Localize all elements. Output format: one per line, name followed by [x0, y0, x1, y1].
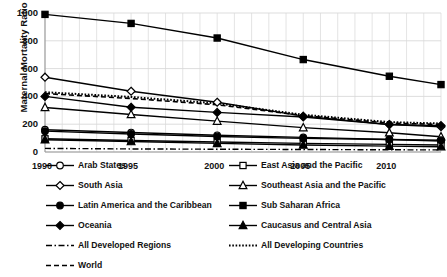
legend-item[interactable]: All Developed Regions — [45, 240, 171, 251]
legend-item-label: Oceania — [78, 220, 111, 231]
data-point-diamond-filled — [127, 103, 135, 111]
legend-marker-triangle-filled — [228, 220, 258, 231]
legend-item[interactable]: Caucasus and Central Asia — [228, 220, 372, 231]
legend-item[interactable]: Southeast Asia and the Pacific — [228, 180, 386, 191]
legend-key-icon — [45, 260, 75, 271]
data-point-circle-open — [57, 162, 64, 169]
x-axis-tick-label: 2010 — [376, 161, 396, 171]
legend-marker-square-open — [228, 160, 258, 171]
legend-marker-none — [228, 240, 258, 251]
data-point-diamond-filled — [213, 108, 221, 116]
series-line-5 — [45, 14, 441, 84]
legend-marker-diamond-open — [45, 180, 75, 191]
legend-marker-none — [45, 240, 75, 251]
legend-key-icon — [45, 220, 75, 231]
legend-item-label: Caucasus and Central Asia — [261, 220, 372, 231]
data-point-diamond-filled — [385, 120, 393, 128]
legend-marker-square-filled — [228, 200, 258, 211]
series-line-10 — [45, 94, 441, 125]
legend-key-icon — [45, 160, 75, 171]
legend-item-label: All Developed Regions — [78, 240, 171, 251]
y-axis-tick-label: 800 — [4, 35, 38, 46]
legend-item-label: All Developing Countries — [261, 240, 363, 251]
legend-item[interactable]: World — [45, 260, 102, 271]
legend-key-icon — [228, 240, 258, 251]
data-point-square-filled — [42, 11, 48, 17]
y-axis-tick-label: 400 — [4, 90, 38, 101]
data-point-square-filled — [240, 202, 246, 208]
data-point-square-filled — [214, 35, 220, 41]
x-axis-tick-label: 2000 — [204, 161, 224, 171]
series-lines — [45, 14, 441, 150]
data-point-square-filled — [128, 20, 134, 26]
legend-item[interactable]: Oceania — [45, 220, 111, 231]
data-point-diamond-filled — [56, 222, 64, 230]
legend-key-icon — [45, 240, 75, 251]
series-line-7 — [45, 140, 441, 147]
chart-plot-area — [0, 0, 447, 277]
y-axis-tick-label: 600 — [4, 63, 38, 74]
y-axis-tick-label: 0 — [4, 146, 38, 157]
legend-item-label: East Asia and the Pacific — [261, 160, 362, 171]
legend-item-label: Sub Saharan Africa — [261, 200, 340, 211]
y-axis-tick-label: 1000 — [4, 7, 38, 18]
chart-container: Maternal Mortality Ratio 020040060080010… — [0, 0, 447, 277]
legend-key-icon — [228, 220, 258, 231]
legend-marker-circle-filled — [45, 200, 75, 211]
series-line-2 — [45, 77, 441, 126]
data-point-diamond-open — [41, 73, 49, 81]
legend-marker-triangle-open — [228, 180, 258, 191]
legend-item-label: Southeast Asia and the Pacific — [261, 180, 386, 191]
data-point-square-filled — [438, 81, 444, 87]
series-markers — [41, 11, 445, 150]
data-point-circle-filled — [42, 128, 49, 135]
legend-item[interactable]: South Asia — [45, 180, 123, 191]
legend-key-icon — [228, 200, 258, 211]
data-point-circle-filled — [57, 202, 64, 209]
legend-marker-diamond-filled — [45, 220, 75, 231]
legend-item[interactable]: Sub Saharan Africa — [228, 200, 340, 211]
legend-key-icon — [45, 200, 75, 211]
legend-key-icon — [45, 180, 75, 191]
y-axis-tick-label: 200 — [4, 118, 38, 129]
legend-item[interactable]: East Asia and the Pacific — [228, 160, 362, 171]
series-line-8 — [45, 148, 441, 150]
data-point-square-open — [240, 162, 246, 168]
data-point-diamond-open — [56, 182, 64, 190]
data-point-diamond-open — [127, 87, 135, 95]
legend-key-icon — [228, 180, 258, 191]
legend-item[interactable]: Arab States — [45, 160, 126, 171]
legend-item-label: Arab States — [78, 160, 126, 171]
legend-marker-none — [45, 260, 75, 271]
legend-item[interactable]: Latin America and the Caribbean — [45, 200, 212, 211]
legend-item-label: Latin America and the Caribbean — [78, 200, 212, 211]
legend-item[interactable]: All Developing Countries — [228, 240, 363, 251]
series-markers-5 — [42, 11, 444, 87]
data-point-triangle-open — [41, 103, 49, 110]
legend-item-label: World — [78, 260, 102, 271]
legend-marker-circle-open — [45, 160, 75, 171]
data-point-square-filled — [386, 73, 392, 79]
legend-key-icon — [228, 160, 258, 171]
legend-item-label: South Asia — [78, 180, 123, 191]
data-point-square-filled — [300, 56, 306, 62]
